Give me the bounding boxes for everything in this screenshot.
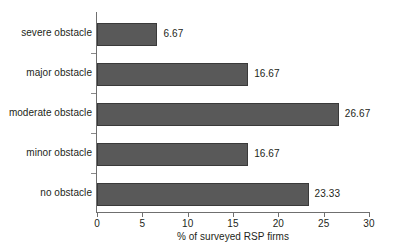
category-label-no-obstacle: no obstacle [0,187,92,199]
category-label-major-obstacle: major obstacle [0,67,92,79]
x-axis-tick-mark [97,213,98,217]
x-axis-tick-label: 0 [94,218,100,230]
bar-value-label: 6.67 [163,28,183,40]
x-axis-title: % of surveyed RSP firms [97,231,369,243]
bar-value-label: 16.67 [254,68,280,80]
x-axis-tick-mark [369,213,370,217]
bar-moderate-obstacle[interactable] [97,103,339,126]
x-axis-tick-label: 15 [227,218,238,230]
x-axis-tick-mark [233,213,234,217]
x-axis-tick-label: 30 [363,218,374,230]
bar-value-label: 16.67 [254,148,280,160]
category-label-moderate-obstacle: moderate obstacle [0,107,92,119]
bar-severe-obstacle[interactable] [97,23,157,46]
category-label-minor-obstacle: minor obstacle [0,147,92,159]
bar-no-obstacle[interactable] [97,183,309,206]
y-axis-tick [91,173,96,174]
bar-minor-obstacle[interactable] [97,143,248,166]
x-axis-tick-mark [278,213,279,217]
y-axis-tick [91,133,96,134]
bar-major-obstacle[interactable] [97,63,248,86]
bar-value-label: 23.33 [315,188,341,200]
x-axis-tick-mark [188,213,189,217]
bar-value-label: 26.67 [345,108,371,120]
bar-chart: 051015202530 severe obstacle major obsta… [0,0,396,251]
x-axis-tick-label: 20 [273,218,284,230]
x-axis-tick-label: 10 [182,218,193,230]
x-axis-tick-mark [324,213,325,217]
y-axis-tick [91,93,96,94]
plot-area: 6.6716.6726.6716.6723.33 [97,12,369,212]
x-axis-tick-mark [142,213,143,217]
category-label-severe-obstacle: severe obstacle [0,27,92,39]
x-axis-tick-label: 5 [139,218,145,230]
x-axis-tick-label: 25 [318,218,329,230]
y-axis-tick [91,53,96,54]
